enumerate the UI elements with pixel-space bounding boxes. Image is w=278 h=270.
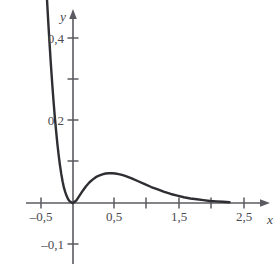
- plot-background: [0, 0, 278, 270]
- x-tick-label-2.5: 2,5: [236, 209, 252, 224]
- y-tick-label--0.1: –0,1: [40, 237, 64, 252]
- x-axis-label: x: [266, 212, 273, 227]
- y-tick-label-0.4: 0,4: [48, 31, 65, 46]
- x-tick-label--0.5: –0,5: [29, 209, 53, 224]
- y-tick-label-0.2: 0,2: [48, 113, 64, 128]
- x-tick-label-1.5: 1,5: [171, 209, 187, 224]
- function-graph: –0,5 0,5 1,5 2,5 0,4 0,2 –0,1 y x: [0, 0, 278, 270]
- x-tick-label-0.5: 0,5: [106, 209, 122, 224]
- figure-canvas: –0,5 0,5 1,5 2,5 0,4 0,2 –0,1 y x: [0, 0, 278, 270]
- y-axis-label: y: [58, 9, 66, 24]
